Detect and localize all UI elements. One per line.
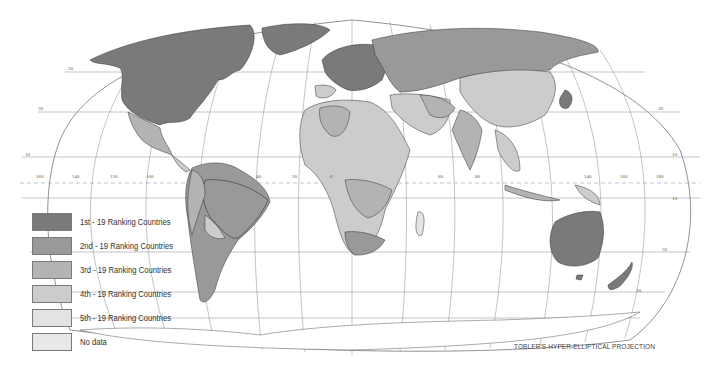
australia (550, 211, 603, 266)
legend-label: No data (80, 337, 107, 347)
lon-label: 40 (256, 174, 261, 179)
madagascar (416, 212, 424, 236)
legend-label: 4th - 19 Ranking Countries (80, 289, 171, 299)
legend-item-rank2: 2nd - 19 Ranking Countries (32, 234, 212, 258)
greenland (262, 24, 330, 55)
legend-label: 2nd - 19 Ranking Countries (80, 241, 173, 251)
legend-item-rank5: 5th - 19 Ranking Countries (32, 306, 212, 330)
lat-label: 10 (25, 152, 30, 157)
japan (559, 90, 572, 108)
legend-label: 3rd - 19 Ranking Countries (80, 265, 171, 275)
new-guinea (575, 185, 600, 205)
lat-label: 10 (672, 152, 677, 157)
legend-item-rank4: 4th - 19 Ranking Countries (32, 282, 212, 306)
lon-label: 0 (330, 174, 333, 179)
legend-swatch (32, 237, 72, 255)
lon-label: 180 (656, 174, 664, 179)
legend-item-rank3: 3rd - 19 Ranking Countries (32, 258, 212, 282)
lat-label: 30 (662, 247, 667, 252)
legend-swatch (32, 285, 72, 303)
legend: 1st - 19 Ranking Countries 2nd - 19 Rank… (32, 210, 212, 354)
lon-label: 160 (36, 174, 44, 179)
india (452, 110, 482, 170)
lon-label: 140 (72, 174, 80, 179)
lat-label: 30 (658, 106, 663, 111)
iberia (315, 85, 336, 98)
legend-item-nodata: No data (32, 330, 212, 354)
legend-swatch (32, 333, 72, 351)
lon-label: 140 (584, 174, 592, 179)
lon-label: 80 (475, 174, 480, 179)
legend-item-rank1: 1st - 19 Ranking Countries (32, 210, 212, 234)
lat-label: 30 (38, 106, 43, 111)
new-zealand (608, 262, 632, 290)
legend-label: 5th - 19 Ranking Countries (80, 313, 171, 323)
lon-label: 20 (292, 174, 297, 179)
lat-label: 10 (672, 196, 677, 201)
lon-label: 160 (620, 174, 628, 179)
projection-caption: TOBLER'S HYPER-ELLIPTICAL PROJECTION (514, 343, 655, 350)
lat-label: 50 (636, 288, 641, 293)
lon-label: 120 (110, 174, 118, 179)
lat-label: 50 (68, 66, 73, 71)
legend-swatch (32, 213, 72, 231)
southeast-asia (495, 130, 520, 171)
legend-swatch (32, 261, 72, 279)
lon-label: 60 (438, 174, 443, 179)
central-america (172, 155, 190, 172)
tasmania (576, 275, 583, 280)
north-america (90, 25, 254, 125)
legend-swatch (32, 309, 72, 327)
lon-label: 100 (146, 174, 154, 179)
southern-africa (345, 232, 385, 256)
legend-label: 1st - 19 Ranking Countries (80, 217, 171, 227)
